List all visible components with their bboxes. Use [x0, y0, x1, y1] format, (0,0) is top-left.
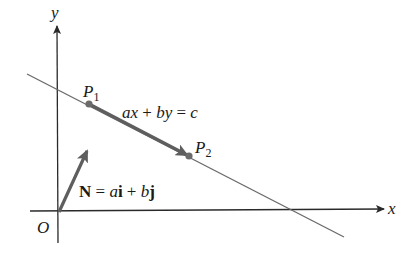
origin-label: O — [37, 218, 49, 237]
p1-label: P1 — [82, 82, 99, 104]
y-axis-label: y — [49, 3, 59, 22]
point-p2-dot — [185, 152, 192, 159]
normal-vector-label: N = ai + bj — [79, 182, 155, 201]
x-axis-label: x — [387, 199, 396, 218]
x-axis — [30, 209, 384, 211]
p2-label: P2 — [194, 138, 211, 160]
normal-vector-diagram: y x O P1 P2 ax + by = c N = ai + bj — [0, 0, 402, 257]
line-equation-label: ax + by = c — [122, 103, 198, 122]
point-p1-dot — [85, 100, 92, 107]
